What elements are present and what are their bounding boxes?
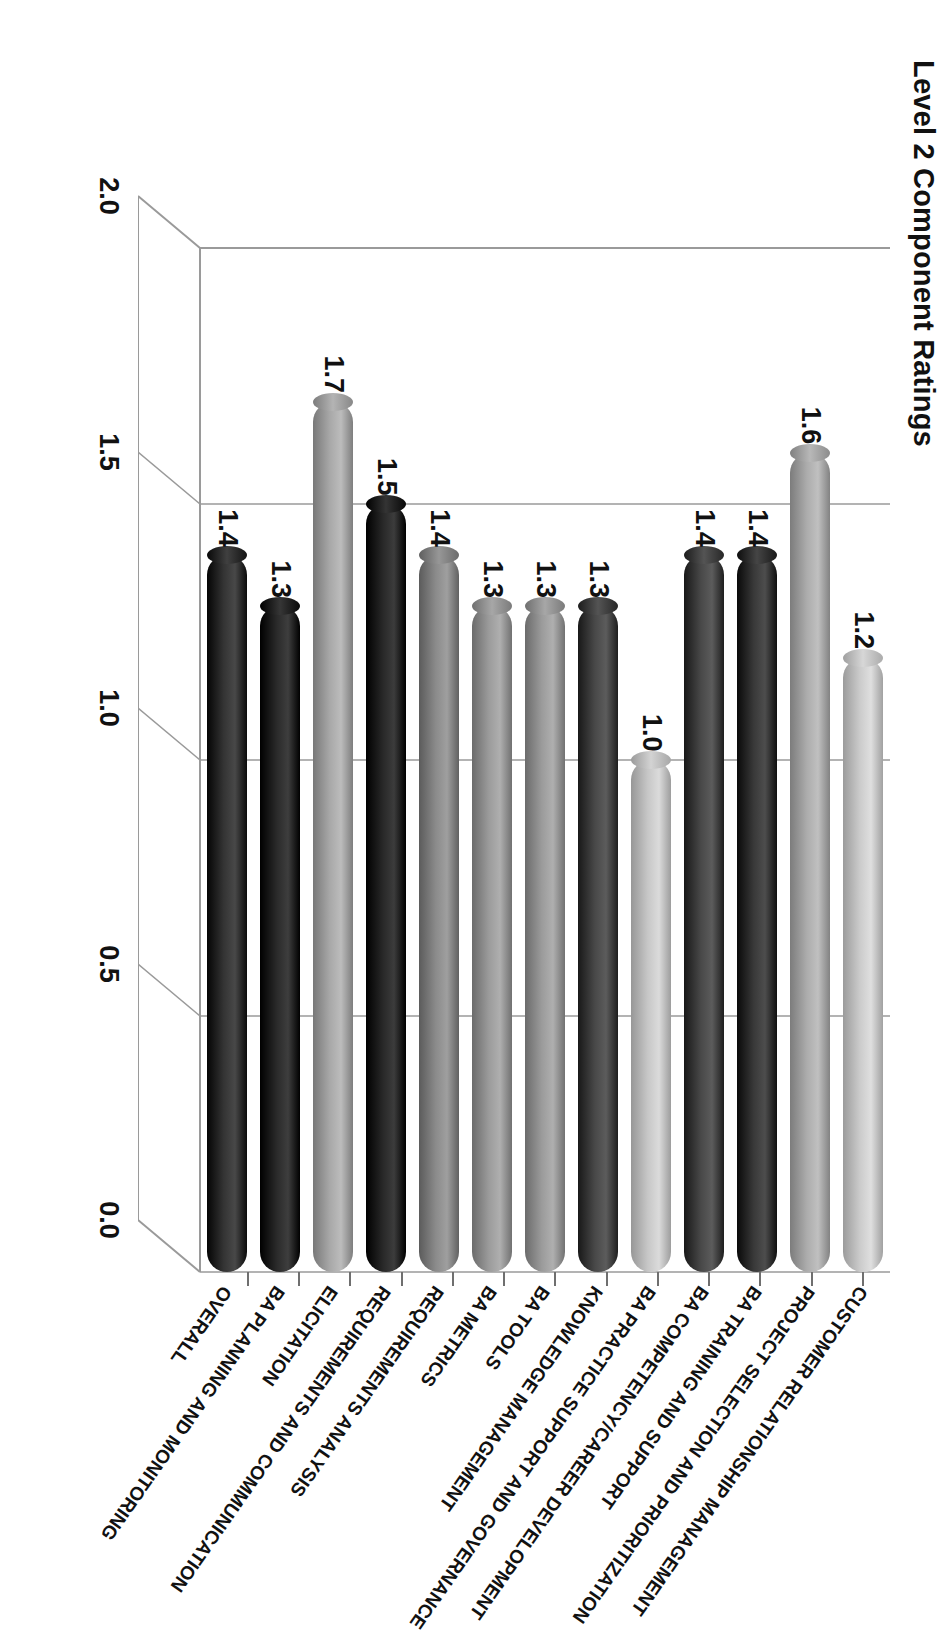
value-axis-tick-label: 0.0: [93, 1201, 124, 1239]
bar-cylinder: [790, 453, 830, 1272]
bar-row: 1.3: [260, 606, 300, 1272]
value-axis-tick-label: 0.5: [93, 945, 124, 983]
bar-body: [366, 504, 406, 1272]
bar-body: [737, 555, 777, 1272]
bar-row: 1.3: [472, 606, 512, 1272]
bar-body: [578, 606, 618, 1272]
bar-end-cap: [843, 649, 883, 667]
bar-body: [472, 606, 512, 1272]
bar-value-label: 1.3: [264, 560, 295, 598]
bar-value-label: 1.4: [689, 509, 720, 547]
bar-cylinder: [631, 760, 671, 1272]
bar-body: [313, 402, 353, 1272]
bar-value-label: 1.7: [317, 356, 348, 394]
bar-row: 1.7: [313, 402, 353, 1272]
bar-cylinder: [578, 606, 618, 1272]
bar-row: 1.4: [419, 555, 459, 1272]
bar-value-label: 1.5: [370, 458, 401, 496]
bar-end-cap: [631, 751, 671, 769]
bar-body: [207, 555, 247, 1272]
value-axis-tick-label: 1.0: [93, 689, 124, 727]
bar-body: [419, 555, 459, 1272]
bar-value-label: 1.0: [636, 714, 667, 752]
bar-row: 1.4: [684, 555, 724, 1272]
bar-cylinder: [737, 555, 777, 1272]
bar-row: 1.0: [631, 760, 671, 1272]
bar-value-label: 1.3: [476, 560, 507, 598]
bar-row: 1.3: [578, 606, 618, 1272]
bar-value-label: 1.4: [742, 509, 773, 547]
bar-value-label: 1.4: [423, 509, 454, 547]
bar-cylinder: [525, 606, 565, 1272]
plot-area: 1.41.31.71.51.41.31.31.31.01.41.41.61.2: [138, 186, 890, 1326]
bar-body: [260, 606, 300, 1272]
bar-row: 1.4: [737, 555, 777, 1272]
bar-end-cap: [313, 393, 353, 411]
value-axis-tick-label: 2.0: [93, 177, 124, 215]
bar-body: [843, 658, 883, 1272]
bar-cylinder: [207, 555, 247, 1272]
bar-end-cap: [207, 546, 247, 564]
bar-end-cap: [790, 444, 830, 462]
bar-series: 1.41.31.71.51.41.31.31.31.01.41.41.61.2: [138, 186, 890, 1326]
bar-row: 1.2: [843, 658, 883, 1272]
bar-end-cap: [419, 546, 459, 564]
bar-row: 1.5: [366, 504, 406, 1272]
category-label: BA PRACTICE SUPPORT AND GOVERNANCE: [405, 1282, 660, 1633]
value-axis-tick-label: 1.5: [93, 433, 124, 471]
bar-value-label: 1.3: [530, 560, 561, 598]
bar-body: [790, 453, 830, 1272]
bar-cylinder: [366, 504, 406, 1272]
bar-cylinder: [419, 555, 459, 1272]
bar-row: 1.6: [790, 453, 830, 1272]
bar-value-label: 1.6: [795, 407, 826, 445]
bar-row: 1.4: [207, 555, 247, 1272]
bar-cylinder: [313, 402, 353, 1272]
bar-cylinder: [684, 555, 724, 1272]
bar-body: [684, 555, 724, 1272]
bar-body: [525, 606, 565, 1272]
bar-cylinder: [260, 606, 300, 1272]
bar-value-label: 1.4: [211, 509, 242, 547]
bar-row: 1.3: [525, 606, 565, 1272]
bar-body: [631, 760, 671, 1272]
bar-cylinder: [843, 658, 883, 1272]
bar-value-label: 1.3: [583, 560, 614, 598]
bar-cylinder: [472, 606, 512, 1272]
bar-value-label: 1.2: [848, 612, 879, 650]
chart-title: Level 2 Component Ratings: [907, 60, 940, 447]
bar-end-cap: [366, 495, 406, 513]
